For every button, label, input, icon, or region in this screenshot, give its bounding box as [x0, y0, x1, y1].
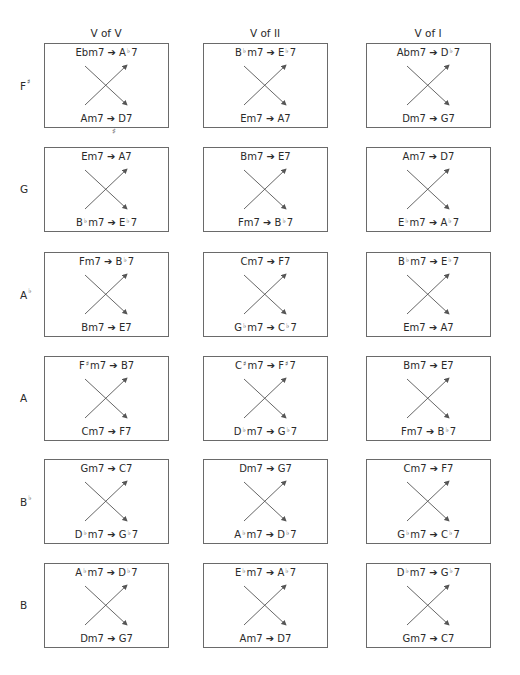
substitution-box: Ebm7 ➔ A♭7Am7 ➔ D7	[44, 43, 169, 128]
substitution-box: Am7 ➔ D7E♭m7 ➔ A♭7	[366, 147, 491, 232]
cross-arrows-icon	[367, 460, 492, 545]
substitution-box: Abm7 ➔ D♭7Dm7 ➔ G7	[366, 43, 491, 128]
column-header: V of I	[363, 27, 493, 39]
substitution-box: Cm7 ➔ F7G♭m7 ➔ C♭7	[203, 252, 328, 337]
substitution-box: Gm7 ➔ C7D♭m7 ➔ G♭7	[44, 459, 169, 544]
key-label: A	[20, 392, 44, 404]
substitution-box: C♯m7 ➔ F♯7D♭m7 ➔ G♭7	[203, 356, 328, 441]
cross-arrows-icon	[367, 253, 492, 338]
cross-arrows-icon	[204, 460, 329, 545]
cross-arrows-icon	[45, 253, 170, 338]
substitution-box: Em7 ➔ A7B♭m7 ➔ E♭7	[44, 147, 169, 232]
cross-arrows-icon	[45, 44, 170, 129]
key-label: F♯	[20, 79, 44, 92]
cross-arrows-icon	[367, 357, 492, 442]
cross-arrows-icon	[367, 564, 492, 649]
cross-arrows-icon	[45, 357, 170, 442]
substitution-box: B♭m7 ➔ E♭7Em7 ➔ A7	[203, 43, 328, 128]
cross-arrows-icon	[367, 148, 492, 233]
key-label: G	[20, 183, 44, 195]
substitution-box: Bm7 ➔ E7Fm7 ➔ B♭7	[203, 147, 328, 232]
substitution-box: Bm7 ➔ E7Fm7 ➔ B♭7	[366, 356, 491, 441]
cross-arrows-icon	[45, 564, 170, 649]
key-label: A♭	[20, 288, 44, 301]
column-header: V of V	[41, 27, 171, 39]
cross-arrows-icon	[204, 44, 329, 129]
cross-arrows-icon	[204, 253, 329, 338]
cross-arrows-icon	[204, 357, 329, 442]
substitution-box: A♭m7 ➔ D♭7Dm7 ➔ G7	[44, 563, 169, 648]
substitution-box: Dm7 ➔ G7A♭m7 ➔ D♭7	[203, 459, 328, 544]
column-header: V of II	[200, 27, 330, 39]
key-label: B♭	[20, 495, 44, 508]
cross-arrows-icon	[45, 460, 170, 545]
cross-arrows-icon	[204, 564, 329, 649]
substitution-box: Fm7 ➔ B♭7Bm7 ➔ E7	[44, 252, 169, 337]
substitution-box: F♯m7 ➔ B7Cm7 ➔ F7	[44, 356, 169, 441]
substitution-box: Cm7 ➔ F7G♭m7 ➔ C♭7	[366, 459, 491, 544]
cross-arrows-icon	[204, 148, 329, 233]
substitution-box: B♭m7 ➔ E♭7Em7 ➔ A7	[366, 252, 491, 337]
cross-arrows-icon	[367, 44, 492, 129]
sharp-mark: ♯	[112, 127, 116, 136]
substitution-box: E♭m7 ➔ A♭7Am7 ➔ D7	[203, 563, 328, 648]
key-label: B	[20, 599, 44, 611]
cross-arrows-icon	[45, 148, 170, 233]
substitution-box: D♭m7 ➔ G♭7Gm7 ➔ C7	[366, 563, 491, 648]
